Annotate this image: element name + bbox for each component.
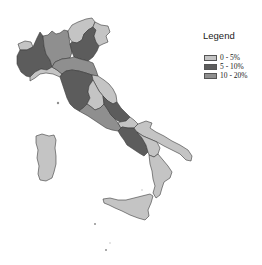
legend-title: Legend [203,30,235,41]
legend-swatch-medium [204,73,217,79]
legend-label: 10 - 20% [220,72,248,79]
region-sicilia [103,194,153,220]
island-lampedusa [105,249,107,251]
legend-swatch-dark [204,64,217,70]
island-elba [57,102,59,104]
legend-swatch-light [204,55,217,61]
region-sardegna [36,134,56,181]
island-pantelleria [94,223,96,225]
region-calabria [149,154,172,198]
legend-label: 5 - 10% [220,63,244,70]
legend-item-10-20: 10 - 20% [204,72,248,79]
island-linosa [109,242,111,244]
legend-item-0-5: 0 - 5% [204,54,240,61]
legend-label: 0 - 5% [220,54,240,61]
island-eolie [141,189,143,191]
legend-item-5-10: 5 - 10% [204,63,244,70]
